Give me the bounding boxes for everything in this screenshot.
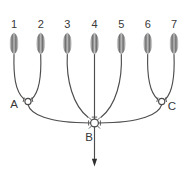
receptor-cell-4 <box>90 33 99 55</box>
receptor-cell-7 <box>169 33 178 55</box>
node-label-c: C <box>168 100 176 112</box>
receptor-cell-3 <box>63 33 72 55</box>
node-b-terminal-upper-right <box>97 118 99 120</box>
axon-a-to-b <box>28 105 91 123</box>
node-b-terminal-upper-left <box>89 118 91 120</box>
axon-c-to-b <box>99 105 162 123</box>
convergence-diagram-svg: 1 2 3 4 5 6 7 A C <box>0 0 190 174</box>
node-b-terminal-lower-left <box>89 126 91 128</box>
receptor-label-1: 1 <box>11 18 17 30</box>
receptor-cell-2 <box>36 33 45 55</box>
receptor-label-7: 7 <box>171 18 177 30</box>
axon-2-to-a <box>32 55 41 100</box>
receptor-label-3: 3 <box>64 18 70 30</box>
node-b-soma <box>91 119 99 127</box>
node-label-b: B <box>85 131 93 143</box>
axon-7-to-c <box>166 55 175 100</box>
receptor-label-5: 5 <box>118 18 124 30</box>
receptor-label-4: 4 <box>91 18 97 30</box>
node-label-a: A <box>10 98 18 110</box>
receptor-cell-6 <box>143 33 152 55</box>
axon-1-to-a <box>14 55 24 100</box>
down-arrow-icon <box>92 159 97 167</box>
node-c-soma <box>159 98 165 104</box>
axon-6-to-c <box>148 55 158 100</box>
axon-3-to-b <box>67 55 88 118</box>
convergence-diagram: 1 2 3 4 5 6 7 A C <box>0 0 190 174</box>
node-a-soma <box>25 98 31 104</box>
axon-5-to-b <box>101 55 121 118</box>
node-b-terminal-lower-right <box>97 126 99 128</box>
receptor-cell-5 <box>117 33 126 55</box>
receptor-label-2: 2 <box>38 18 44 30</box>
receptor-label-6: 6 <box>145 18 151 30</box>
receptor-cell-1 <box>9 33 18 55</box>
